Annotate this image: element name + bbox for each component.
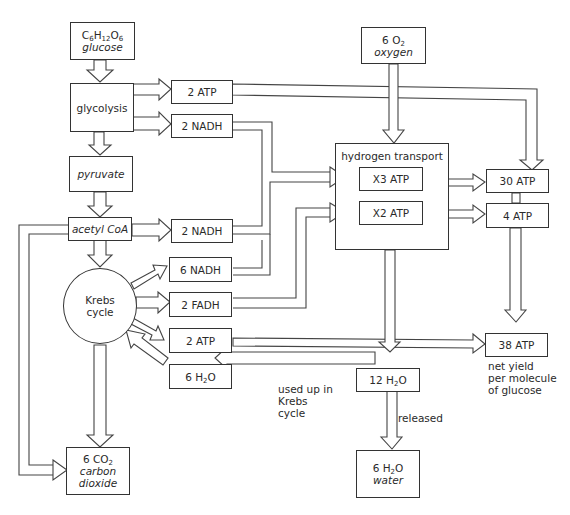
water-used-box: 6 H2O [169, 364, 232, 389]
water-12-box: 12 H2O [356, 368, 420, 392]
arrow-4-38 [505, 228, 526, 322]
oxygen-box: 6 O2 oxygen [361, 27, 426, 64]
nadh-acetyl-box: 2 NADH [171, 219, 233, 243]
atp-38-box: 38 ATP [485, 333, 548, 357]
oxygen-label: oxygen [374, 46, 413, 58]
co2-label-line1: carbon [80, 465, 116, 477]
line-nadh6-x3 [233, 240, 262, 268]
co2-formula: 6 CO2 [83, 453, 113, 465]
oxygen-formula: 6 O2 [382, 34, 405, 46]
atp-30-box: 30 ATP [486, 169, 549, 193]
arrow-glycolysis-atp [133, 79, 171, 100]
krebs-cycle-circle: Krebs cycle [63, 268, 137, 344]
arrow-glucose-glycolysis [87, 60, 113, 82]
line-fadh-x2-a [233, 208, 338, 298]
pyruvate-box: pyruvate [69, 156, 133, 192]
arrow-acetyl-krebs [88, 240, 112, 267]
arrow-acetyl-nadh [132, 219, 171, 241]
glycolysis-box: glycolysis [70, 83, 134, 132]
krebs-label-line1: Krebs [85, 294, 115, 306]
arrow-krebs-fadh [136, 292, 170, 313]
arrow-pyruvate-acetyl [88, 192, 112, 217]
arrow-12water-6water [215, 347, 375, 369]
arrow-oxygen-hydrogen [383, 64, 404, 143]
arrow-glycolysis-pyruvate [89, 132, 111, 155]
co2-label-line2: dioxide [79, 477, 117, 489]
atp-glycolysis-box: 2 ATP [171, 80, 233, 104]
water-label: water [373, 474, 403, 486]
line-fadh-x2-b [233, 217, 338, 308]
connector-layer [0, 0, 570, 515]
krebs-label-line2: cycle [86, 306, 113, 318]
line-acetyl-co2-outer [19, 225, 68, 475]
acetyl-coa-box: acetyl CoA [68, 217, 132, 241]
fadh-krebs-box: 2 FADH [169, 292, 232, 317]
line-nadh-x3-inner [233, 130, 262, 226]
released-annotation: released [398, 412, 443, 424]
net-yield-annotation: net yield per molecule of glucose [488, 360, 557, 396]
atp-krebs-box: 2 ATP [169, 328, 232, 353]
hydrogen-transport-box: hydrogen transport [335, 143, 449, 250]
arrow-30-4 [512, 193, 520, 203]
nadh-krebs-box: 6 NADH [169, 257, 232, 282]
atp-4-box: 4 ATP [486, 203, 549, 228]
line-nadh6-x3b [233, 234, 270, 275]
line-acetyl-co2-inner [29, 234, 68, 465]
glucose-formula: C6H12O6 [82, 29, 123, 41]
arrow-hydrogen-12water [379, 250, 400, 352]
arrow-krebs-co2 [87, 345, 113, 447]
arrow-krebsatp-38 [233, 334, 485, 353]
x3-atp-box: X3 ATP [359, 167, 423, 191]
co2-box: 6 CO2 carbon dioxide [66, 447, 130, 495]
arrow-glycolysis-nadh [133, 112, 171, 135]
arrowhead-into-co2 [53, 460, 67, 480]
x2-atp-box: X2 ATP [359, 201, 423, 225]
used-up-annotation: used up in Krebs cycle [278, 383, 333, 419]
hydrogen-transport-label: hydrogen transport [341, 150, 443, 162]
arrow-krebs-nadh [131, 265, 167, 289]
glucose-label: glucose [82, 41, 122, 53]
nadh-glycolysis-box: 2 NADH [171, 114, 233, 138]
water-6-box: 6 H2O water [356, 450, 420, 498]
glucose-box: C6H12O6 glucose [70, 22, 135, 60]
